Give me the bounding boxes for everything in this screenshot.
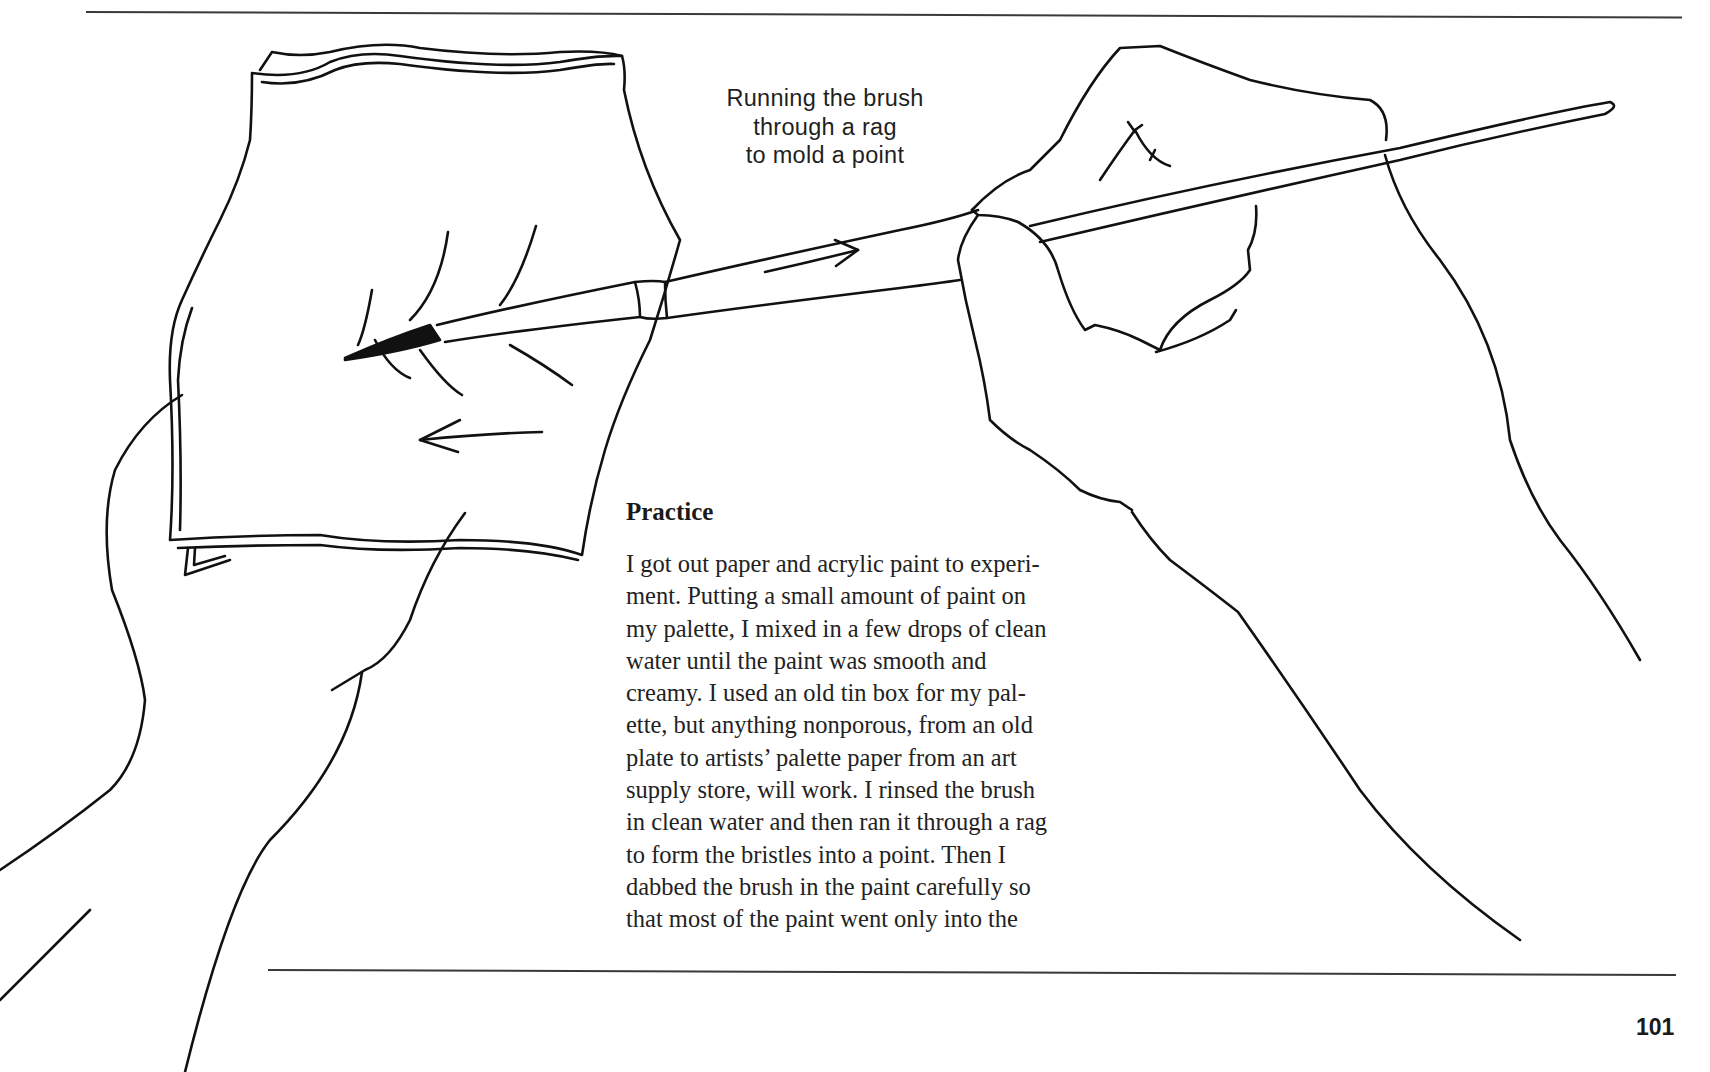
body-line: in clean water and then ran it through a… <box>626 806 1146 838</box>
practice-section: Practice I got out paper and acrylic pai… <box>626 498 1146 936</box>
caption-line: through a rag <box>690 113 960 142</box>
body-line: ette, but anything nonporous, from an ol… <box>626 709 1146 741</box>
illustration-caption: Running the brush through a rag to mold … <box>690 84 960 170</box>
body-line: ment. Putting a small amount of paint on <box>626 580 1146 612</box>
caption-line: Running the brush <box>690 84 960 113</box>
body-line: my palette, I mixed in a few drops of cl… <box>626 613 1146 645</box>
section-heading: Practice <box>626 498 1146 526</box>
page-number: 101 <box>1636 1014 1674 1041</box>
caption-line: to mold a point <box>690 141 960 170</box>
body-line: dabbed the brush in the paint carefully … <box>626 871 1146 903</box>
body-line: I got out paper and acrylic paint to exp… <box>626 548 1146 580</box>
body-line: to form the bristles into a point. Then … <box>626 839 1146 871</box>
body-paragraph: I got out paper and acrylic paint to exp… <box>626 548 1146 936</box>
rag-drawing <box>170 45 680 575</box>
body-line: that most of the paint went only into th… <box>626 903 1146 935</box>
body-line: supply store, will work. I rinsed the br… <box>626 774 1146 806</box>
body-line: water until the paint was smooth and <box>626 645 1146 677</box>
body-line: plate to artists’ palette paper from an … <box>626 742 1146 774</box>
body-line: creamy. I used an old tin box for my pal… <box>626 677 1146 709</box>
